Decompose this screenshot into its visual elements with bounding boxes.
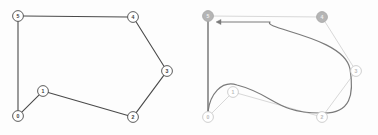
tour-path-group xyxy=(208,19,352,113)
graph-node-4[interactable]: 4 xyxy=(317,12,328,23)
graph-node-2[interactable]: 2 xyxy=(317,112,328,123)
tour-arrowhead-icon xyxy=(216,19,221,24)
node-circle-5 xyxy=(203,11,214,22)
node-circle-3 xyxy=(351,66,362,77)
input-graph-svg: 012345 xyxy=(0,0,189,135)
graph-node-3[interactable]: 3 xyxy=(162,66,173,77)
node-circle-2 xyxy=(317,112,328,123)
graph-edge-4-3 xyxy=(136,22,164,67)
panel-input-graph: 012345 xyxy=(0,0,189,135)
tour-graph-edges xyxy=(208,16,353,115)
graph-node-2[interactable]: 2 xyxy=(128,112,139,123)
graph-edge-4-3 xyxy=(325,22,353,67)
graph-edge-2-1 xyxy=(48,92,128,115)
graph-node-4[interactable]: 4 xyxy=(128,12,139,23)
tour-graph-svg: 012345 xyxy=(189,0,378,135)
graph-node-1[interactable]: 1 xyxy=(38,86,49,97)
graph-edge-1-0 xyxy=(22,95,39,112)
graph-node-0[interactable]: 0 xyxy=(203,112,214,123)
tour-curve xyxy=(208,22,352,113)
node-circle-1 xyxy=(38,86,49,97)
graph-edge-3-2 xyxy=(325,75,353,112)
graph-node-5[interactable]: 5 xyxy=(13,11,24,22)
node-circle-2 xyxy=(128,112,139,123)
graph-node-1[interactable]: 1 xyxy=(228,87,239,98)
node-circle-1 xyxy=(228,87,239,98)
graph-node-3[interactable]: 3 xyxy=(351,66,362,77)
node-circle-4 xyxy=(317,12,328,23)
node-circle-5 xyxy=(13,11,24,22)
graph-edge-5-4 xyxy=(213,16,316,17)
graph-edge-5-4 xyxy=(23,16,127,17)
input-graph-edges xyxy=(18,16,164,115)
node-circle-4 xyxy=(128,12,139,23)
graph-node-0[interactable]: 0 xyxy=(13,111,24,122)
node-circle-0 xyxy=(203,112,214,123)
panel-tour-overlay-graph: 012345 xyxy=(189,0,378,135)
graph-edge-3-2 xyxy=(136,75,164,112)
graph-edge-1-0 xyxy=(212,96,229,113)
node-circle-0 xyxy=(13,111,24,122)
graph-figure: 012345 012345 xyxy=(0,0,378,135)
graph-node-5[interactable]: 5 xyxy=(203,11,214,22)
node-circle-3 xyxy=(162,66,173,77)
